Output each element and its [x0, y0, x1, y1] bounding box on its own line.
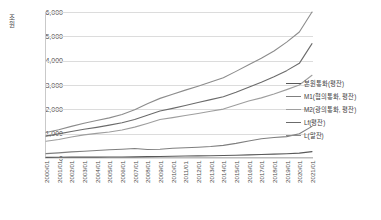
legend-swatch-icon [286, 96, 301, 97]
legend-label: 본원통화(평잔) [304, 80, 344, 87]
series-line [46, 44, 312, 136]
legend-label: L(말잔) [304, 132, 324, 139]
x-tick-label: 2000/01 [42, 161, 51, 209]
legend-item[interactable]: M1(협의통화, 평잔) [286, 90, 381, 103]
legend-item[interactable]: M2(광의통화, 평잔) [286, 103, 381, 116]
x-tick-label: 2009/01 [156, 161, 165, 209]
legend-item[interactable]: 본원통화(평잔) [286, 77, 381, 90]
x-tick-label: 2007/01 [131, 161, 140, 209]
x-tick-label: 2003/01 [80, 161, 89, 209]
x-tick-label: 2020/01 [295, 161, 304, 209]
series-lines [45, 12, 313, 158]
legend-swatch-icon [286, 109, 301, 110]
y-axis-title: 조원 [1, 14, 15, 28]
x-tick-label: 2013/01 [207, 161, 216, 209]
legend-item[interactable]: L(말잔) [286, 129, 381, 142]
monetary-aggregates-line-chart: 조원 01,0002,0003,0004,0005,0006,000 2000/… [0, 0, 381, 220]
series-line [46, 12, 312, 132]
plot-area [45, 12, 313, 158]
x-tick-label: 2012/01 [194, 161, 203, 209]
x-tick-label: 2014/01 [219, 161, 228, 209]
x-tick-label: 2010/01 [169, 161, 178, 209]
x-tick-label: 2008/01 [143, 161, 152, 209]
x-tick-label: 2004/01 [93, 161, 102, 209]
legend-swatch-icon [286, 83, 301, 84]
legend-label: Lf(평잔) [304, 119, 325, 126]
x-tick-label: 2005/01 [105, 161, 114, 209]
legend-swatch-icon [286, 135, 301, 136]
x-tick-label: 2002/01 [67, 161, 76, 209]
x-tick-label: 2016/01 [245, 161, 254, 209]
x-tick-label: 2021/01 [308, 161, 317, 209]
legend-item[interactable]: Lf(평잔) [286, 116, 381, 129]
gridline [45, 158, 313, 159]
series-line [46, 75, 312, 141]
x-tick-label: 2011/01 [181, 161, 190, 209]
x-tick-label: 2006/01 [118, 161, 127, 209]
legend-swatch-icon [286, 122, 301, 123]
x-tick-label: 2018/01 [270, 161, 279, 209]
legend-label: M1(협의통화, 평잔) [304, 93, 356, 100]
legend-label: M2(광의통화, 평잔) [304, 106, 356, 113]
x-tick-label: 2015/01 [232, 161, 241, 209]
chart-legend: 본원통화(평잔)M1(협의통화, 평잔)M2(광의통화, 평잔)Lf(평잔)L(… [286, 77, 381, 142]
series-line [46, 126, 312, 153]
x-tick-label: 2001/01 [55, 161, 64, 209]
x-tick-label: 2017/01 [257, 161, 266, 209]
x-tick-label: 2019/01 [283, 161, 292, 209]
series-line [46, 152, 312, 158]
